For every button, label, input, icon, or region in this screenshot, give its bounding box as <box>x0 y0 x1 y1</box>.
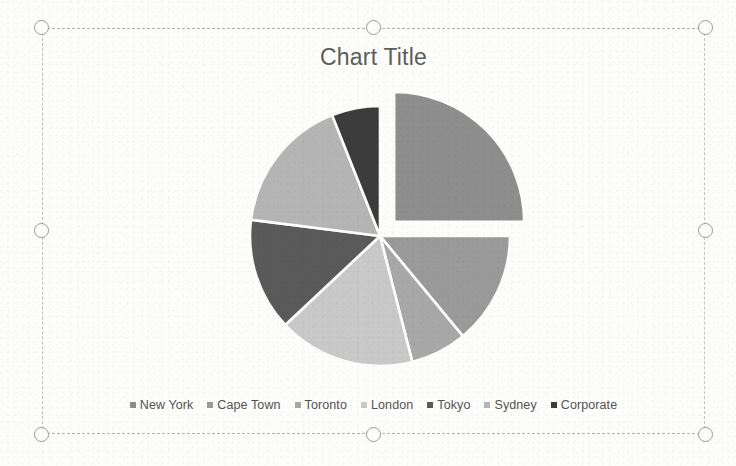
legend-item-label: Cape Town <box>217 398 280 412</box>
legend-swatch-icon <box>361 402 367 408</box>
resize-handle-top-left[interactable] <box>34 20 49 35</box>
resize-handle-middle-left[interactable] <box>34 223 49 238</box>
resize-handle-bottom-left[interactable] <box>34 427 49 442</box>
legend-item-label: Tokyo <box>437 398 470 412</box>
resize-handle-top-right[interactable] <box>698 20 713 35</box>
legend-item[interactable]: Tokyo <box>427 398 470 412</box>
legend-item[interactable]: Cape Town <box>207 398 280 412</box>
legend-item-label: Sydney <box>494 398 536 412</box>
legend-swatch-icon <box>551 402 557 408</box>
legend-swatch-icon <box>295 402 301 408</box>
resize-handle-middle-right[interactable] <box>698 223 713 238</box>
resize-handle-top-center[interactable] <box>366 20 381 35</box>
legend-swatch-icon <box>427 402 433 408</box>
legend-item-label: New York <box>140 398 194 412</box>
pie-slice[interactable] <box>394 92 524 222</box>
legend-item-label: Toronto <box>305 398 347 412</box>
legend-swatch-icon <box>130 402 136 408</box>
legend-item[interactable]: Toronto <box>295 398 347 412</box>
legend-swatch-icon <box>207 402 213 408</box>
pie-chart[interactable] <box>42 28 705 434</box>
legend-item-label: Corporate <box>561 398 618 412</box>
resize-handle-bottom-center[interactable] <box>366 427 381 442</box>
legend-item[interactable]: Corporate <box>551 398 618 412</box>
resize-handle-bottom-right[interactable] <box>698 427 713 442</box>
chart-plot-area[interactable]: Chart Title New YorkCape TownTorontoLond… <box>42 28 705 434</box>
chart-legend[interactable]: New YorkCape TownTorontoLondonTokyoSydne… <box>42 398 705 412</box>
legend-item[interactable]: Sydney <box>484 398 536 412</box>
pie-chart-svg <box>42 28 705 434</box>
legend-swatch-icon <box>484 402 490 408</box>
chart-object-selection[interactable]: Chart Title New YorkCape TownTorontoLond… <box>42 28 705 434</box>
legend-item[interactable]: London <box>361 398 413 412</box>
legend-item[interactable]: New York <box>130 398 194 412</box>
legend-item-label: London <box>371 398 413 412</box>
